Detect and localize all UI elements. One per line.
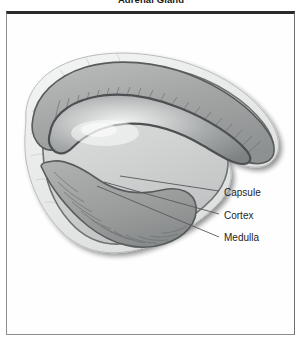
callout-label-cortex: Cortex bbox=[224, 210, 253, 221]
callout-label-capsule: Capsule bbox=[224, 187, 261, 198]
figure-title: Adrenal Gland bbox=[0, 0, 302, 5]
callout-label-medulla: Medulla bbox=[224, 232, 259, 243]
illustration-panel bbox=[6, 11, 295, 335]
